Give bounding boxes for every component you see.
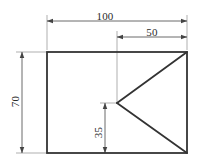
dimension-label-50: 50 [146, 27, 157, 38]
technical-drawing-canvas: 100 50 70 35 [0, 0, 202, 168]
dimension-label-100: 100 [96, 11, 113, 22]
dimension-label-70: 70 [10, 96, 21, 107]
drawing-vector-layer [0, 0, 202, 168]
interior-triangle [117, 52, 187, 153]
triangle-edge-upper [117, 52, 187, 103]
triangle-edge-lower [117, 103, 187, 153]
dimension-label-35: 35 [93, 127, 104, 138]
